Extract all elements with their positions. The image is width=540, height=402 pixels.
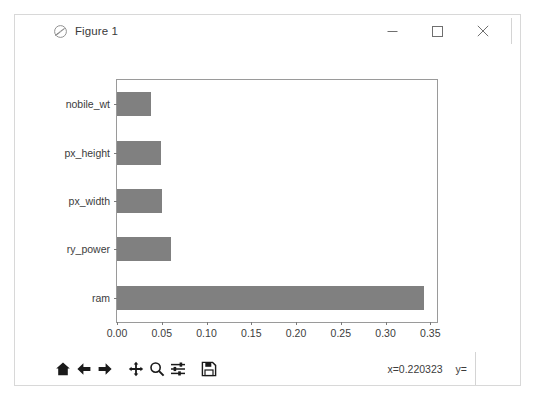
titlebar-divider bbox=[511, 18, 512, 44]
figure-window[interactable]: Figure 1 ra bbox=[14, 14, 521, 386]
x-tick-label: 0.30 bbox=[375, 328, 395, 339]
figure-canvas[interactable]: ramry_powerpx_widthpx_heightnobile_wt0.0… bbox=[15, 47, 520, 353]
bar-px_height bbox=[117, 141, 161, 165]
coordinate-x: x=0.220323 bbox=[387, 363, 442, 375]
x-tick-mark bbox=[207, 322, 208, 325]
x-tick-mark bbox=[296, 322, 297, 325]
cursor-coordinates: x=0.220323y= bbox=[387, 363, 467, 375]
configure-subplots-button[interactable] bbox=[167, 358, 188, 379]
home-icon bbox=[55, 361, 71, 377]
close-button[interactable] bbox=[460, 15, 505, 47]
navigation-toolbar[interactable]: x=0.220323y= bbox=[15, 352, 520, 385]
toolbar-button-group bbox=[52, 358, 219, 379]
x-tick-label: 0.20 bbox=[286, 328, 306, 339]
minimize-button[interactable] bbox=[370, 15, 415, 47]
x-tick-mark bbox=[162, 322, 163, 325]
x-tick-mark bbox=[117, 322, 118, 325]
toolbar-divider bbox=[475, 352, 476, 385]
coordinate-y: y= bbox=[456, 363, 467, 375]
floppy-disk-icon bbox=[201, 361, 217, 377]
window-title: Figure 1 bbox=[75, 25, 118, 37]
maximize-icon bbox=[432, 26, 443, 37]
magnifier-icon bbox=[149, 361, 165, 377]
y-tick-mark bbox=[114, 153, 117, 154]
matplotlib-figure-icon bbox=[53, 24, 68, 39]
x-tick-mark bbox=[430, 322, 431, 325]
x-tick-label: 0.15 bbox=[241, 328, 261, 339]
sliders-icon bbox=[170, 361, 186, 377]
y-tick-label-px_width: px_width bbox=[69, 196, 110, 207]
x-tick-label: 0.00 bbox=[107, 328, 127, 339]
zoom-button[interactable] bbox=[146, 358, 167, 379]
home-button[interactable] bbox=[52, 358, 73, 379]
title-bar-left: Figure 1 bbox=[53, 24, 118, 39]
x-tick-mark bbox=[341, 322, 342, 325]
y-tick-label-px_height: px_height bbox=[64, 147, 110, 158]
x-tick-label: 0.10 bbox=[196, 328, 216, 339]
y-tick-mark bbox=[114, 201, 117, 202]
arrow-left-icon bbox=[76, 361, 92, 377]
save-button[interactable] bbox=[198, 358, 219, 379]
arrow-right-icon bbox=[97, 361, 113, 377]
bar-battery_power bbox=[117, 237, 171, 261]
y-tick-mark bbox=[114, 104, 117, 105]
plot-axes[interactable]: ramry_powerpx_widthpx_heightnobile_wt0.0… bbox=[116, 79, 438, 323]
window-controls bbox=[370, 15, 520, 47]
x-tick-mark bbox=[251, 322, 252, 325]
bar-ram bbox=[117, 286, 424, 310]
move-cross-icon bbox=[128, 361, 144, 377]
y-tick-mark bbox=[114, 298, 117, 299]
x-tick-mark bbox=[386, 322, 387, 325]
bar-mobile_wt bbox=[117, 92, 151, 116]
close-icon bbox=[477, 25, 489, 37]
y-tick-mark bbox=[114, 249, 117, 250]
title-bar[interactable]: Figure 1 bbox=[15, 15, 520, 47]
minimize-icon bbox=[387, 26, 398, 37]
x-tick-label: 0.35 bbox=[420, 328, 440, 339]
x-tick-label: 0.05 bbox=[152, 328, 172, 339]
forward-button[interactable] bbox=[94, 358, 115, 379]
back-button[interactable] bbox=[73, 358, 94, 379]
y-tick-label-battery_power: ry_power bbox=[67, 244, 110, 255]
y-tick-label-ram: ram bbox=[92, 293, 110, 304]
bar-px_width bbox=[117, 189, 162, 213]
pan-button[interactable] bbox=[125, 358, 146, 379]
x-tick-label: 0.25 bbox=[331, 328, 351, 339]
y-tick-label-mobile_wt: nobile_wt bbox=[66, 99, 110, 110]
maximize-button[interactable] bbox=[415, 15, 460, 47]
